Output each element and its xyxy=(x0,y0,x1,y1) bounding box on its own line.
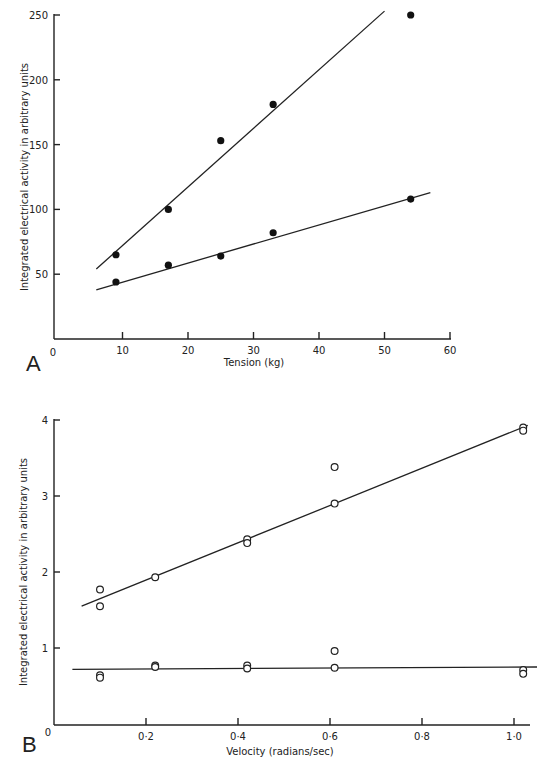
x-tick-label: 1·0 xyxy=(506,731,522,742)
x-axis-title-a: Tension (kg) xyxy=(223,357,285,368)
figure: 50100150200250 102030405060 0 Tension (k… xyxy=(0,0,555,771)
data-point xyxy=(407,195,414,202)
y-axis-title-b: Integrated electrical activity in arbitr… xyxy=(18,458,29,686)
y-axis-title-a: Integrated electrical activity in arbitr… xyxy=(19,63,30,291)
y-tick-label: 50 xyxy=(35,269,48,280)
x-tick-label: 0·8 xyxy=(414,731,430,742)
data-point xyxy=(331,664,338,671)
y-tick-label: 4 xyxy=(42,415,48,426)
fit-line-lower xyxy=(72,667,537,669)
data-point xyxy=(165,262,172,269)
y-tick-label: 250 xyxy=(29,10,48,21)
data-point xyxy=(97,603,104,610)
data-point xyxy=(165,206,172,213)
x-tick-label: 30 xyxy=(247,345,260,356)
x-tick-label: 0·6 xyxy=(322,731,338,742)
data-point xyxy=(152,664,159,671)
y-tick-label: 100 xyxy=(29,204,48,215)
x-tick-label: 40 xyxy=(313,345,326,356)
data-point xyxy=(152,574,159,581)
data-point xyxy=(97,674,104,681)
data-point xyxy=(520,427,527,434)
x-tick-label: 50 xyxy=(378,345,391,356)
data-point xyxy=(217,137,224,144)
data-point xyxy=(407,11,414,18)
x-axis-title-b: Velocity (radians/sec) xyxy=(226,746,334,757)
x-tick-label: 10 xyxy=(116,345,129,356)
data-point xyxy=(520,670,527,677)
data-point xyxy=(270,101,277,108)
fit-line-lower xyxy=(96,193,430,290)
data-point xyxy=(244,540,251,547)
y-tick-label: 3 xyxy=(42,491,48,502)
x-tick-label: 0·4 xyxy=(230,731,246,742)
y-tick-label: 1 xyxy=(42,643,48,654)
panel-label-b: B xyxy=(22,732,37,757)
x-ticks-a: 102030405060 xyxy=(116,332,456,356)
y-ticks-b: 1234 xyxy=(42,415,60,654)
chart-panel-b: 1234 0·20·40·60·81·0 0 Velocity (radians… xyxy=(18,415,537,757)
data-point xyxy=(244,665,251,672)
x-origin-label-b: 0 xyxy=(45,727,51,738)
x-origin-label-a: 0 xyxy=(50,347,56,358)
data-point xyxy=(112,278,119,285)
y-tick-label: 150 xyxy=(29,140,48,151)
data-points-b xyxy=(97,424,527,681)
data-point xyxy=(217,252,224,259)
data-point xyxy=(270,229,277,236)
data-point xyxy=(331,464,338,471)
fit-line-upper xyxy=(96,11,384,269)
data-point xyxy=(112,251,119,258)
panel-label-a: A xyxy=(26,351,41,376)
x-tick-label: 20 xyxy=(182,345,195,356)
data-point xyxy=(331,648,338,655)
data-point xyxy=(331,500,338,507)
x-tick-label: 60 xyxy=(444,345,457,356)
fit-lines-b xyxy=(72,425,537,669)
x-tick-label: 0·2 xyxy=(138,731,154,742)
chart-panel-a: 50100150200250 102030405060 0 Tension (k… xyxy=(19,10,456,376)
y-tick-label: 2 xyxy=(42,567,48,578)
fit-line-upper xyxy=(82,425,528,606)
y-tick-label: 200 xyxy=(29,75,48,86)
y-ticks-a: 50100150200250 xyxy=(29,10,60,280)
x-ticks-b: 0·20·40·60·81·0 xyxy=(138,718,522,742)
data-points-a xyxy=(112,11,414,285)
data-point xyxy=(97,586,104,593)
fit-lines-a xyxy=(96,11,430,290)
